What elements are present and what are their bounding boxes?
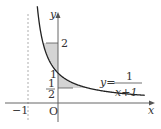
shaded-region-lower [58,73,88,88]
equation-denominator: x+1 [115,86,137,99]
y-axis-label: y [49,8,57,21]
function-graph: y x O −1 2 1 1 2 y= 1 x+1 [0,0,161,129]
x-axis-label: x [148,104,155,117]
tick-y-two: 2 [61,37,68,50]
tick-x-neg-one: −1 [12,104,28,117]
equation-lhs: y= [99,76,115,89]
equation-numerator: 1 [126,70,133,83]
y-axis-arrow [56,12,61,18]
origin-label: O [49,105,58,118]
tick-y-half-denominator: 2 [48,88,55,101]
